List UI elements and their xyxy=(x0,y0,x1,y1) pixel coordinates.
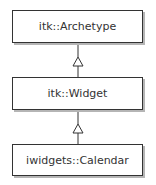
class-box-calendar: iwidgets::Calendar xyxy=(12,144,143,176)
class-name: itk::Widget xyxy=(48,87,108,100)
arrow-calendar-to-widget xyxy=(73,111,83,144)
arrow-widget-to-archetype xyxy=(73,44,83,77)
class-box-widget: itk::Widget xyxy=(12,77,143,110)
class-box-archetype: itk::Archetype xyxy=(12,10,143,43)
class-name: itk::Archetype xyxy=(39,20,116,33)
class-name: iwidgets::Calendar xyxy=(26,154,129,167)
